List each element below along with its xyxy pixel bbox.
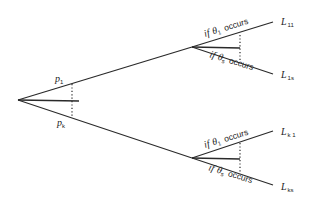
leaf-L1s: L1s — [280, 69, 294, 81]
label-pk: pk — [56, 117, 66, 129]
leaf-L11: L11 — [280, 16, 294, 28]
leaf-Lk1: Lk 1 — [280, 126, 296, 138]
branch-pk — [18, 100, 192, 158]
cond-lower-thetas: ifθsoccurs — [207, 161, 254, 186]
cond-upper-thetas: ifθsoccurs — [208, 48, 255, 73]
lower-chance-node: ifθ1occurs ifθsoccurs Lk 1 Lks — [192, 126, 296, 193]
branch-middle-stub — [18, 100, 79, 101]
upper-chance-node: ifθ1occurs ifθsoccurs L11 L1s — [192, 15, 294, 81]
label-p1: p1 — [54, 73, 64, 85]
branch-lower-middle-stub — [192, 158, 240, 159]
branch-upper-middle-stub — [192, 47, 240, 48]
decision-tree-diagram: p1 pk ifθ1occurs ifθsoccurs L11 L1s ifθ1… — [0, 0, 311, 206]
leaf-Lks: Lks — [280, 181, 294, 193]
branch-p1 — [18, 47, 192, 100]
